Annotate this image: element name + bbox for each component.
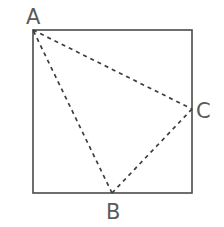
geometry-canvas: A B C: [0, 0, 224, 227]
geometry-figure: A B C: [0, 0, 224, 227]
triangle-edge-c-to-b: [112, 109, 192, 193]
vertex-label-c: C: [196, 99, 211, 123]
vertex-label-a: A: [26, 5, 41, 29]
triangle-edge-b-to-a: [33, 30, 112, 193]
vertex-label-b: B: [106, 200, 120, 224]
outer-square: [33, 30, 192, 193]
triangle-edge-a-to-c: [33, 30, 192, 109]
